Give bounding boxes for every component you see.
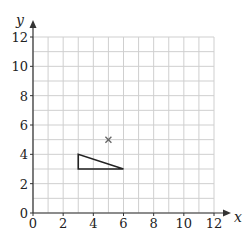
grid-lines: [33, 37, 214, 213]
axes: [30, 20, 232, 217]
y-tick-label: 6: [20, 118, 28, 133]
y-axis-arrow-icon: [30, 20, 37, 28]
y-tick-label: 0: [20, 206, 28, 221]
x-tick-label: 10: [176, 216, 193, 231]
x-axis-arrow-icon: [223, 210, 231, 217]
x-axis-label: x: [234, 209, 242, 225]
triangle-shape: [78, 154, 123, 169]
shapes: [78, 154, 123, 169]
y-tick-label: 10: [11, 59, 28, 74]
y-tick-label: 4: [20, 147, 28, 162]
x-tick-label: 4: [89, 216, 97, 231]
y-tick-label: 2: [20, 177, 28, 192]
x-tick-label: 2: [59, 216, 67, 231]
x-tick-label: 12: [206, 216, 223, 231]
y-tick-label: 12: [11, 30, 28, 45]
x-tick-label: 6: [119, 216, 127, 231]
y-tick-label: 8: [20, 89, 28, 104]
y-axis-label: y: [15, 12, 25, 28]
x-tick-label: 8: [150, 216, 158, 231]
coordinate-grid-chart: 024681012024681012 x y: [0, 0, 252, 239]
tick-labels: 024681012024681012: [11, 30, 222, 231]
x-tick-label: 0: [29, 216, 37, 231]
